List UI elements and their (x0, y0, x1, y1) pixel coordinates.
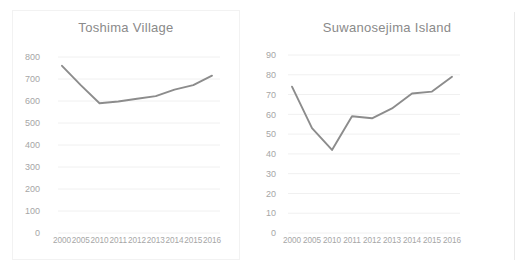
y-axis-tick-label: 60 (266, 110, 276, 120)
y-axis-tick-label: 600 (25, 96, 40, 106)
x-axis-tick-label: 2000 (53, 236, 72, 245)
y-axis-tick-label: 500 (25, 118, 40, 128)
plot-area-toshima-village: 8007006005004003002001000200020052010201… (0, 0, 252, 271)
y-axis-tick-label: 200 (25, 184, 40, 194)
y-axis-tick-label: 700 (25, 74, 40, 84)
x-axis-tick-label: 2013 (383, 236, 402, 245)
x-axis-tick-label: 2012 (363, 236, 382, 245)
x-axis-tick-label: 2014 (403, 236, 422, 245)
chart-panel-toshima-village: Toshima Village 800700600500400300200100… (0, 0, 252, 271)
y-axis-tick-label: 40 (266, 149, 276, 159)
y-axis-tick-label: 90 (266, 50, 276, 60)
x-axis-tick-label: 2005 (72, 236, 91, 245)
plot-area-suwanosejima-island: 9080706050403020100200020052010201120122… (252, 0, 522, 271)
x-axis-tick-label: 2012 (128, 236, 147, 245)
y-axis-tick-label: 100 (25, 206, 40, 216)
y-axis-tick-label: 50 (266, 129, 276, 139)
y-axis-tick-label: 0 (35, 228, 40, 238)
x-axis-tick-label: 2014 (165, 236, 184, 245)
y-axis-tick-label: 800 (25, 52, 40, 62)
y-axis-tick-label: 300 (25, 162, 40, 172)
x-axis-tick-label: 2010 (90, 236, 109, 245)
y-axis-tick-label: 70 (266, 90, 276, 100)
dual-line-chart-figure: Toshima Village 800700600500400300200100… (0, 0, 522, 271)
x-axis-tick-label: 2005 (303, 236, 322, 245)
chart-panel-suwanosejima-island: Suwanosejima Island 90807060504030201002… (252, 0, 522, 271)
y-axis-tick-label: 80 (266, 70, 276, 80)
x-axis-tick-label: 2011 (343, 236, 361, 245)
y-axis-tick-label: 400 (25, 140, 40, 150)
x-axis-tick-label: 2015 (423, 236, 442, 245)
x-axis-tick-label: 2013 (147, 236, 166, 245)
data-series-line (62, 66, 212, 103)
x-axis-tick-label: 2015 (184, 236, 203, 245)
x-axis-tick-label: 2011 (109, 236, 127, 245)
data-series-line (292, 77, 452, 150)
x-axis-tick-label: 2016 (443, 236, 462, 245)
y-axis-tick-label: 0 (271, 228, 276, 238)
x-axis-tick-label: 2010 (323, 236, 342, 245)
y-axis-tick-label: 20 (266, 189, 276, 199)
y-axis-tick-label: 30 (266, 169, 276, 179)
y-axis-tick-label: 10 (266, 208, 276, 218)
x-axis-tick-label: 2016 (203, 236, 222, 245)
x-axis-tick-label: 2000 (283, 236, 302, 245)
